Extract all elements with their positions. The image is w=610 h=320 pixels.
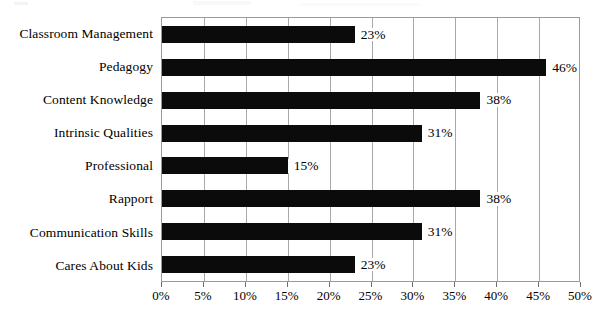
bar <box>162 157 288 174</box>
tick-label: 30% <box>400 289 424 302</box>
bar <box>162 59 546 76</box>
tick-mark <box>371 282 372 287</box>
category-label: Professional <box>0 150 158 183</box>
tick-mark <box>203 282 204 287</box>
tick-mark <box>245 282 246 287</box>
scan-artifact <box>193 1 251 5</box>
tick-mark <box>161 282 162 287</box>
tick-label: 40% <box>484 289 508 302</box>
tick-label: 10% <box>233 289 257 302</box>
category-label: Intrinsic Qualities <box>0 116 158 149</box>
bar <box>162 190 480 207</box>
scan-artifact <box>14 2 28 5</box>
bar-value-label: 38% <box>480 93 513 107</box>
tick-mark <box>538 282 539 287</box>
bar-row: 23% <box>162 18 579 51</box>
bar <box>162 26 355 43</box>
value-axis: 0%5%10%15%20%25%30%35%40%45%50% <box>161 282 580 312</box>
bar-row: 38% <box>162 84 579 117</box>
plot-area: 23%46%38%31%15%38%31%23% <box>161 17 580 282</box>
bar-value-label: 38% <box>480 192 513 206</box>
bar-value-label: 23% <box>355 28 388 42</box>
bars-layer: 23%46%38%31%15%38%31%23% <box>162 18 579 281</box>
tick-mark <box>329 282 330 287</box>
tick-label: 15% <box>275 289 299 302</box>
bar-value-label: 15% <box>288 159 321 173</box>
category-label: Rapport <box>0 183 158 216</box>
tick-label: 25% <box>359 289 383 302</box>
bar-row: 46% <box>162 51 579 84</box>
bar <box>162 223 422 240</box>
bar-value-label: 23% <box>355 258 388 272</box>
tick-label: 35% <box>442 289 466 302</box>
bar-value-label: 31% <box>422 126 455 140</box>
tick-label: 20% <box>317 289 341 302</box>
bar-row: 23% <box>162 248 579 281</box>
tick-mark <box>580 282 581 287</box>
bar-row: 15% <box>162 150 579 183</box>
bar <box>162 256 355 273</box>
category-label: Classroom Management <box>0 17 158 50</box>
bar <box>162 125 422 142</box>
tick-mark <box>287 282 288 287</box>
scan-artifact <box>300 3 420 6</box>
category-axis: Classroom ManagementPedagogyContent Know… <box>0 17 158 282</box>
tick-label: 45% <box>526 289 550 302</box>
bar-row: 38% <box>162 182 579 215</box>
category-label: Cares About Kids <box>0 249 158 282</box>
category-label: Communication Skills <box>0 216 158 249</box>
bar-row: 31% <box>162 117 579 150</box>
bar-value-label: 31% <box>422 225 455 239</box>
tick-mark <box>496 282 497 287</box>
category-label: Content Knowledge <box>0 83 158 116</box>
tick-label: 5% <box>194 289 211 302</box>
horizontal-bar-chart: Classroom ManagementPedagogyContent Know… <box>0 0 610 320</box>
bar-row: 31% <box>162 215 579 248</box>
tick-mark <box>412 282 413 287</box>
category-label: Pedagogy <box>0 50 158 83</box>
tick-mark <box>454 282 455 287</box>
tick-label: 50% <box>568 289 592 302</box>
tick-label: 0% <box>152 289 169 302</box>
bar-value-label: 46% <box>546 61 579 75</box>
bar <box>162 92 480 109</box>
